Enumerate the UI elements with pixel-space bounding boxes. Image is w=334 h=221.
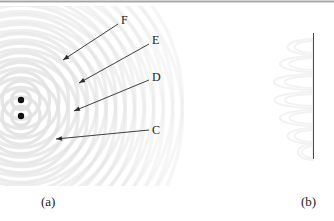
caption-panel-b: (b) <box>301 194 316 210</box>
panel-b-screen-fringes <box>250 6 334 186</box>
panel-a-wave-interference: F E D C <box>0 6 190 186</box>
annotation-label-f: F <box>121 14 128 26</box>
figure-root: F E D C (a) (b) <box>0 0 334 221</box>
fringe-intensity-graphic <box>250 6 334 186</box>
annotation-arrows-graphic <box>0 6 190 186</box>
annotation-label-e: E <box>152 34 159 46</box>
annotation-label-c: C <box>152 124 160 136</box>
caption-panel-a: (a) <box>41 194 55 210</box>
annotation-label-d: D <box>152 71 161 83</box>
detection-screen-line <box>313 33 314 159</box>
top-divider-rule <box>0 0 334 3</box>
